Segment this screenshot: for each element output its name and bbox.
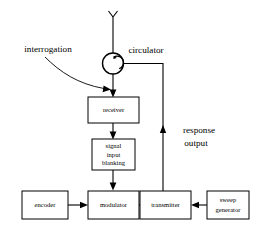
block-label-sweep-line2: generator (216, 206, 242, 213)
interrogation-arrow (45, 57, 111, 92)
block-label-encoder: encoder (35, 201, 57, 208)
block-label-transmitter: transmitter (151, 201, 180, 208)
label-output: output (184, 138, 208, 148)
label-circulator: circulator (128, 45, 163, 55)
wire-sweep-to-transmitter (191, 202, 207, 209)
label-interrogation: interrogation (24, 44, 72, 54)
block-diagram-canvas: receiver signal input blanking encoder (0, 0, 257, 227)
block-label-blanking-line3: blanking (102, 159, 126, 166)
block-receiver[interactable]: receiver (88, 97, 139, 123)
block-label-blanking-line2: input (107, 151, 121, 158)
circulator-icon (103, 53, 124, 74)
block-signal-input-blanking[interactable]: signal input blanking (92, 139, 135, 170)
antenna-icon (109, 11, 118, 53)
transponder-block-diagram: receiver signal input blanking encoder (0, 0, 257, 227)
wire-circulator-to-transmitter (124, 64, 167, 192)
block-label-modulator: modulator (100, 201, 128, 208)
block-encoder[interactable]: encoder (22, 191, 68, 219)
block-label-blanking-line1: signal (106, 142, 122, 149)
block-label-sweep-line1: sweep (220, 196, 237, 203)
wire-blanking-to-modulator (110, 170, 117, 191)
block-sweep-generator[interactable]: sweep generator (207, 191, 249, 219)
wire-circulator-to-receiver (110, 74, 117, 98)
wire-encoder-to-modulator (68, 202, 88, 209)
block-modulator[interactable]: modulator (88, 191, 139, 219)
wire-receiver-to-blanking (110, 123, 117, 140)
block-label-receiver: receiver (103, 106, 125, 113)
label-response: response (183, 125, 215, 135)
block-transmitter[interactable]: transmitter (140, 191, 191, 219)
